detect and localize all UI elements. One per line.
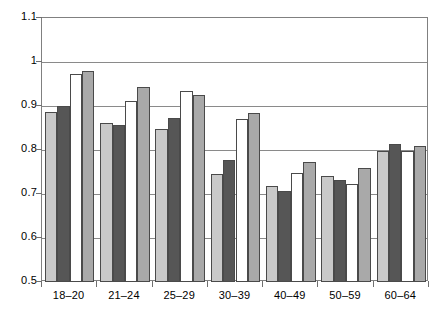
bar-chart: 1.110.90.80.70.60.5 18–2021–2425–2930–39… — [0, 0, 447, 317]
bar — [389, 144, 401, 282]
bar — [113, 125, 125, 282]
bar — [45, 112, 57, 282]
y-tick-label: 0.6 — [0, 231, 37, 242]
bar — [100, 123, 112, 282]
x-tick-mark — [207, 281, 208, 287]
x-tick-label: 25–29 — [152, 290, 207, 301]
plot-area — [41, 17, 428, 281]
x-tick-mark — [428, 281, 429, 287]
bar — [303, 162, 315, 282]
y-tick-label: 1 — [0, 55, 37, 66]
y-tick-label: 0.7 — [0, 187, 37, 198]
x-tick-mark — [41, 281, 42, 287]
y-axis: 1.110.90.80.70.60.5 — [0, 0, 37, 317]
y-tick-label: 0.9 — [0, 99, 37, 110]
bar — [211, 174, 223, 282]
y-tick-label: 0.8 — [0, 143, 37, 154]
x-tick-label: 21–24 — [96, 290, 151, 301]
x-tick-label: 18–20 — [41, 290, 96, 301]
y-tick-label: 0.5 — [0, 275, 37, 286]
y-tick-mark — [36, 105, 42, 106]
x-tick-mark — [262, 281, 263, 287]
y-tick-mark — [36, 193, 42, 194]
bar — [334, 180, 346, 282]
bar — [248, 113, 260, 282]
x-tick-mark — [373, 281, 374, 287]
y-tick-mark — [36, 149, 42, 150]
bar — [414, 146, 426, 282]
bar — [82, 71, 94, 282]
bar — [377, 151, 389, 282]
bar — [236, 119, 248, 282]
y-tick-label: 1.1 — [0, 11, 37, 22]
gridline — [42, 106, 427, 107]
gridline — [42, 62, 427, 63]
bar — [168, 118, 180, 282]
x-axis: 18–2021–2425–2930–3940–4950–5960–64 — [41, 290, 428, 312]
bar — [57, 106, 69, 282]
bar — [223, 160, 235, 282]
bar — [137, 87, 149, 282]
y-tick-mark — [36, 237, 42, 238]
bar — [358, 168, 370, 282]
x-tick-label: 40–49 — [262, 290, 317, 301]
x-tick-mark — [152, 281, 153, 287]
bar — [180, 91, 192, 282]
bar — [321, 176, 333, 282]
bar — [346, 184, 358, 282]
bar — [401, 151, 413, 282]
x-tick-mark — [96, 281, 97, 287]
x-tick-label: 50–59 — [317, 290, 372, 301]
y-tick-mark — [36, 17, 42, 18]
bar — [193, 95, 205, 282]
bar — [70, 74, 82, 282]
y-tick-mark — [36, 61, 42, 62]
bar — [125, 101, 137, 282]
bar — [266, 186, 278, 282]
bar — [291, 173, 303, 282]
bar — [278, 191, 290, 282]
x-tick-mark — [317, 281, 318, 287]
x-tick-label: 60–64 — [373, 290, 428, 301]
bar — [155, 129, 167, 282]
x-tick-label: 30–39 — [207, 290, 262, 301]
